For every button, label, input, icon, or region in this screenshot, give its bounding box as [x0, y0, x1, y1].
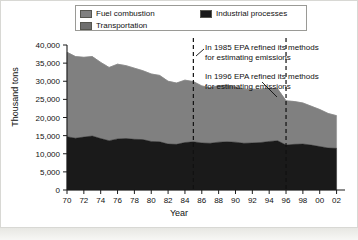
- x-tick-label: 70: [63, 196, 72, 205]
- annotation-1996: In 1996 EPA refined its methods for esti…: [205, 72, 319, 91]
- x-tick-label: 94: [265, 196, 274, 205]
- plot-area: 05,00010,00015,00020,00025,00030,00035,0…: [0, 0, 358, 228]
- y-tick-label: 25,000: [36, 95, 61, 104]
- annotation-1985-line1: In 1985 EPA refined its methods: [205, 43, 319, 53]
- x-tick-label: 74: [96, 196, 105, 205]
- y-tick-label: 15,000: [36, 132, 61, 141]
- figure-bottom-shadow: [0, 228, 358, 240]
- y-tick-label: 0: [56, 186, 61, 195]
- x-tick-group: 7072747678808284868890929496980002: [63, 190, 342, 205]
- plot-svg: 05,00010,00015,00020,00025,00030,00035,0…: [0, 0, 358, 228]
- annotation-1985-line2: for estimating emissions: [205, 53, 319, 63]
- x-tick-label: 88: [214, 196, 223, 205]
- x-tick-label: 90: [231, 196, 240, 205]
- annotation-leader-1985: [196, 49, 204, 56]
- y-tick-label: 5,000: [40, 168, 61, 177]
- y-tick-label: 20,000: [36, 114, 61, 123]
- x-tick-label: 78: [130, 196, 139, 205]
- area-fuel-combustion: [67, 52, 337, 148]
- x-tick-label: 76: [113, 196, 122, 205]
- y-tick-label: 40,000: [36, 41, 61, 50]
- y-tick-label: 35,000: [36, 59, 61, 68]
- x-tick-label: 72: [79, 196, 88, 205]
- annotation-1985: In 1985 EPA refined its methods for esti…: [205, 43, 319, 62]
- annotation-1996-line2: for estimating emissions: [205, 82, 319, 92]
- x-tick-label: 98: [298, 196, 307, 205]
- y-tick-label: 30,000: [36, 77, 61, 86]
- x-tick-label: 80: [147, 196, 156, 205]
- y-tick-group: 05,00010,00015,00020,00025,00030,00035,0…: [36, 41, 67, 195]
- x-tick-label: 02: [332, 196, 341, 205]
- x-tick-label: 84: [180, 196, 189, 205]
- x-tick-label: 00: [315, 196, 324, 205]
- y-tick-label: 10,000: [36, 150, 61, 159]
- annotation-1996-line1: In 1996 EPA refined its methods: [205, 72, 319, 82]
- x-tick-label: 86: [197, 196, 206, 205]
- x-tick-label: 92: [248, 196, 257, 205]
- x-tick-label: 82: [164, 196, 173, 205]
- chart-figure: Fuel combustion Industrial processes Tra…: [0, 0, 358, 240]
- x-tick-label: 96: [282, 196, 291, 205]
- area-industrial-processes: [67, 136, 337, 190]
